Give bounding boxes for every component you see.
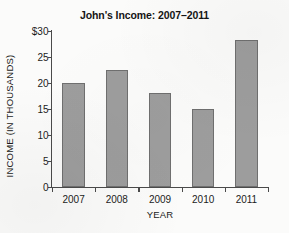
plot-area: 0510152025$30 20072008200920102011: [52, 31, 268, 187]
y-tick-label: 25: [37, 52, 48, 63]
y-axis-label: INCOME (IN THOUSANDS): [4, 38, 18, 194]
y-tick-label: $30: [32, 26, 49, 37]
bar-2008: [106, 70, 128, 187]
y-tick-label: 20: [37, 78, 48, 89]
chart-title: John's Income: 2007–2011: [0, 9, 289, 21]
x-tick-mark: [95, 187, 96, 192]
x-tick-mark: [138, 187, 139, 192]
bar-chart-figure: John's Income: 2007–2011 INCOME (IN THOU…: [0, 0, 289, 233]
x-tick-mark: [182, 187, 183, 192]
bar-2011: [235, 40, 257, 187]
bar-2009: [149, 93, 171, 187]
y-tick-label: 15: [37, 104, 48, 115]
x-tick-label: 2009: [149, 194, 171, 205]
y-tick-label: 0: [43, 182, 49, 193]
x-axis-label: YEAR: [52, 209, 268, 220]
y-tick-label: 5: [43, 156, 49, 167]
bar-2007: [62, 83, 84, 187]
x-tick-label: 2011: [236, 194, 258, 205]
bar-2010: [192, 109, 214, 187]
x-tick-label: 2008: [106, 194, 128, 205]
x-tick-mark: [52, 187, 53, 192]
x-tick-label: 2010: [192, 194, 214, 205]
x-tick-mark: [225, 187, 226, 192]
x-tick-label: 2007: [62, 194, 84, 205]
x-tick-mark: [268, 187, 269, 192]
y-tick-label: 10: [37, 130, 48, 141]
